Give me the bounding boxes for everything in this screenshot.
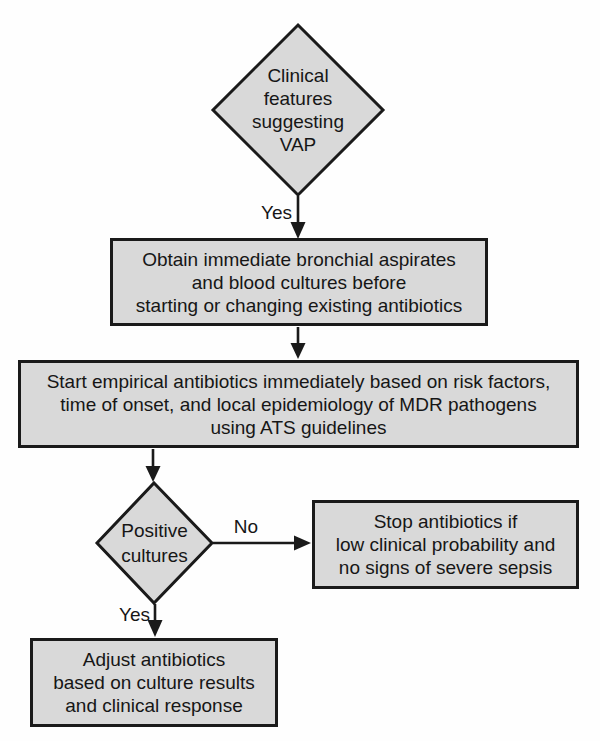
- box-start-line: using ATS guidelines: [210, 416, 386, 439]
- edge-label-yes-bottom: Yes: [93, 605, 150, 625]
- box-adjust-line: and clinical response: [65, 694, 242, 717]
- box-obtain-line: Obtain immediate bronchial aspirates: [142, 248, 456, 271]
- diamond-cultures-line: cultures: [97, 543, 212, 568]
- edge-label-no: No: [224, 517, 268, 537]
- arrow-start-to-cultures: [146, 449, 161, 482]
- decision-diamond-vap-label: Clinical features suggesting VAP: [213, 64, 383, 156]
- box-adjust-line: Adjust antibiotics: [83, 648, 226, 671]
- arrow-obtain-to-start: [291, 327, 306, 359]
- process-box-adjust-antibiotics: Adjust antibiotics based on culture resu…: [30, 638, 278, 727]
- box-stop-line: Stop antibiotics if: [374, 510, 518, 533]
- process-box-obtain-cultures: Obtain immediate bronchial aspirates and…: [110, 238, 488, 326]
- box-start-line: time of onset, and local epidemiology of…: [60, 393, 536, 416]
- process-box-start-antibiotics: Start empirical antibiotics immediately …: [18, 360, 579, 448]
- diamond-vap-line: Clinical: [213, 64, 383, 87]
- box-stop-line: no signs of severe sepsis: [339, 556, 552, 579]
- box-stop-line: low clinical probability and: [336, 533, 556, 556]
- box-obtain-line: starting or changing existing antibiotic…: [136, 294, 462, 317]
- diamond-vap-line: VAP: [213, 133, 383, 156]
- box-adjust-line: based on culture results: [53, 671, 255, 694]
- arrow-cultures-to-stop: [213, 536, 311, 551]
- edge-label-yes-top: Yes: [214, 203, 292, 223]
- process-box-stop-antibiotics: Stop antibiotics if low clinical probabi…: [312, 500, 579, 589]
- decision-diamond-cultures-label: Positive cultures: [97, 518, 212, 568]
- flowchart-canvas: Clinical features suggesting VAP Yes Obt…: [0, 0, 600, 741]
- arrow-vap-to-obtain: [291, 196, 306, 239]
- diamond-vap-line: features: [213, 87, 383, 110]
- box-start-line: Start empirical antibiotics immediately …: [47, 370, 551, 393]
- diamond-cultures-line: Positive: [97, 518, 212, 543]
- box-obtain-line: and blood cultures before: [192, 271, 406, 294]
- diamond-vap-line: suggesting: [213, 110, 383, 133]
